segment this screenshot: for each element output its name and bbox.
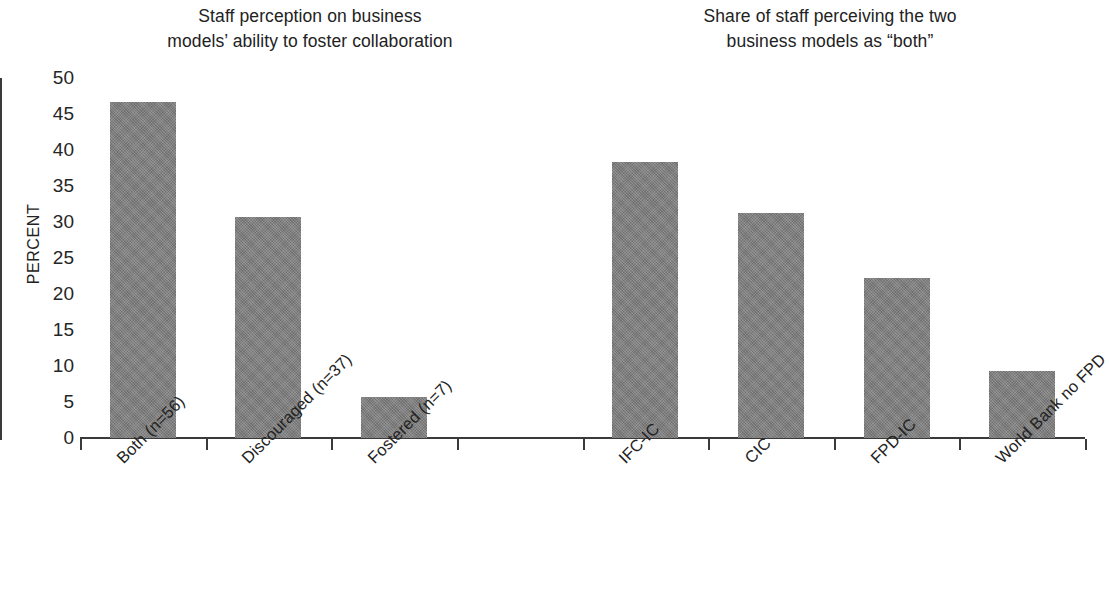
- y-axis-tick-label: 35: [28, 175, 74, 197]
- x-axis-tick: [331, 439, 333, 450]
- y-axis-tick-label: 0: [28, 427, 74, 449]
- x-axis-tick: [206, 439, 208, 450]
- x-axis-tick: [959, 439, 961, 450]
- bar: [110, 102, 176, 438]
- y-axis-tick-label: 5: [28, 391, 74, 413]
- chart-title-right: Share of staff perceiving the two busine…: [620, 4, 1040, 54]
- y-axis-tick-label: 20: [28, 283, 74, 305]
- bar: [864, 278, 930, 438]
- y-axis-tick-label: 50: [28, 67, 74, 89]
- x-axis-tick: [708, 439, 710, 450]
- chart-title-left: Staff perception on business models’ abi…: [100, 4, 520, 54]
- y-axis-line: [0, 78, 2, 440]
- bar: [612, 162, 678, 438]
- y-axis-tick-label: 25: [28, 247, 74, 269]
- y-axis-tick-label: 15: [28, 319, 74, 341]
- x-axis-tick: [1085, 439, 1087, 450]
- y-axis-tick-label: 30: [28, 211, 74, 233]
- x-axis-tick: [80, 439, 82, 450]
- y-axis-tick-labels: 50454035302520151050: [22, 0, 74, 601]
- x-axis-tick: [834, 439, 836, 450]
- y-axis-tick-label: 45: [28, 103, 74, 125]
- x-axis-tick: [457, 439, 459, 450]
- y-axis-tick-label: 40: [28, 139, 74, 161]
- bar: [738, 213, 804, 438]
- y-axis-tick-label: 10: [28, 355, 74, 377]
- x-axis-tick: [583, 439, 585, 450]
